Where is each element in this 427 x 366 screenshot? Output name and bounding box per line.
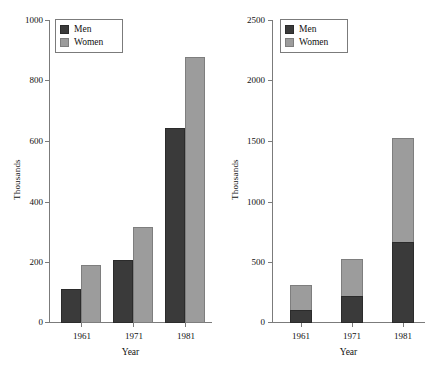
left-legend-row-women: Women	[60, 36, 117, 49]
left-y-tick-200	[45, 262, 49, 263]
left-bar-men-1961	[61, 289, 81, 323]
left-y-tick-label-0: 0	[17, 317, 43, 327]
women-swatch-icon	[60, 38, 69, 47]
right-chart-panel: Thousands 2500 2000 1500 1000 500 0 1961	[213, 0, 427, 366]
right-y-tick-1000	[268, 202, 272, 203]
right-legend-label-women: Women	[299, 37, 328, 48]
right-y-tick-label-2000: 2000	[238, 75, 265, 85]
left-y-tick-label-1000: 1000	[17, 15, 43, 25]
left-bar-women-1961	[81, 265, 101, 323]
right-y-tick-label-1000: 1000	[238, 197, 265, 207]
right-x-axis-label: Year	[272, 347, 425, 357]
right-bar-women-1961	[290, 285, 312, 311]
left-chart-panel: Thousands 1000 800 600 400 200 0 1961	[0, 0, 213, 366]
right-y-axis-line	[272, 20, 273, 323]
left-x-tick-1961	[81, 323, 82, 327]
left-bar-women-1971	[133, 227, 153, 323]
right-legend-row-men: Men	[285, 23, 342, 36]
left-x-tick-label-1981: 1981	[165, 331, 207, 341]
left-x-axis-label: Year	[49, 347, 212, 357]
right-y-tick-1500	[268, 141, 272, 142]
right-y-tick-label-500: 500	[238, 257, 265, 267]
left-y-axis-line	[49, 20, 50, 323]
left-y-tick-label-600: 600	[17, 136, 43, 146]
right-y-axis-label: Thousands	[230, 159, 240, 200]
left-x-tick-1981	[185, 323, 186, 327]
right-legend-row-women: Women	[285, 36, 342, 49]
right-y-tick-label-0: 0	[238, 317, 265, 327]
left-y-tick-label-400: 400	[17, 197, 43, 207]
left-y-tick-1000	[45, 20, 49, 21]
two-panel-bar-chart-figure: Thousands 1000 800 600 400 200 0 1961	[0, 0, 427, 366]
left-y-tick-label-800: 800	[17, 75, 43, 85]
right-y-tick-500	[268, 262, 272, 263]
left-x-tick-label-1961: 1961	[61, 331, 103, 341]
right-x-tick-label-1981: 1981	[382, 331, 424, 341]
right-y-tick-2500	[268, 20, 272, 21]
women-swatch-icon	[285, 38, 294, 47]
right-x-tick-label-1971: 1971	[331, 331, 373, 341]
right-legend-label-men: Men	[299, 24, 316, 35]
right-bar-men-1971	[341, 296, 363, 323]
left-y-tick-0	[45, 322, 49, 323]
right-x-tick-1971	[352, 323, 353, 327]
right-x-tick-label-1961: 1961	[280, 331, 322, 341]
left-bar-men-1981	[165, 128, 185, 323]
left-y-tick-400	[45, 202, 49, 203]
left-y-axis-label: Thousands	[12, 159, 22, 200]
left-x-tick-label-1971: 1971	[113, 331, 155, 341]
right-x-tick-1981	[403, 323, 404, 327]
right-y-tick-0	[268, 322, 272, 323]
right-bar-women-1981	[392, 138, 414, 243]
left-legend-label-women: Women	[74, 37, 103, 48]
left-legend-label-men: Men	[74, 24, 91, 35]
left-y-tick-label-200: 200	[17, 257, 43, 267]
right-chart-legend: Men Women	[280, 19, 348, 53]
right-y-tick-2000	[268, 80, 272, 81]
right-x-tick-1961	[301, 323, 302, 327]
left-x-tick-1971	[133, 323, 134, 327]
right-y-tick-label-1500: 1500	[238, 136, 265, 146]
left-y-tick-600	[45, 141, 49, 142]
left-legend-row-men: Men	[60, 23, 117, 36]
men-swatch-icon	[285, 25, 294, 34]
men-swatch-icon	[60, 25, 69, 34]
right-y-tick-label-2500: 2500	[238, 15, 265, 25]
right-bar-men-1981	[392, 242, 414, 323]
left-bar-women-1981	[185, 57, 205, 323]
right-bar-men-1961	[290, 310, 312, 323]
right-bar-women-1971	[341, 259, 363, 297]
left-chart-legend: Men Women	[55, 19, 123, 53]
left-y-tick-800	[45, 80, 49, 81]
left-bar-men-1971	[113, 260, 133, 323]
